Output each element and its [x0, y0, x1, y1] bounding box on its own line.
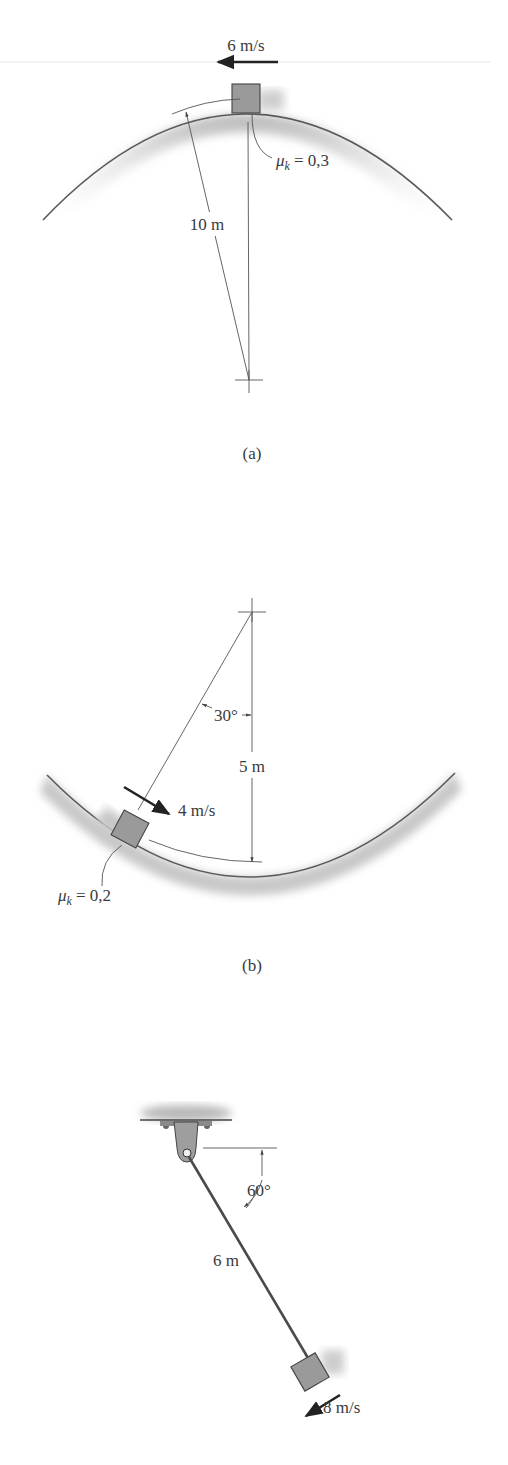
friction-label-a: μk= 0,3 — [275, 151, 329, 173]
radius-label-a: 10 m — [190, 215, 224, 234]
velocity-label-a: 6 m/s — [227, 36, 264, 55]
velocity-label-b: 4 m/s — [178, 801, 215, 820]
caption-b: (b) — [242, 956, 262, 975]
angle-label-c: 60° — [247, 1181, 271, 1200]
motion-blur — [258, 90, 284, 110]
ceiling-shade — [140, 1105, 232, 1121]
velocity-arrow-b — [124, 787, 169, 814]
length-label-c: 6 m — [213, 1251, 239, 1270]
velocity-label-c: 8 m/s — [323, 1398, 360, 1417]
arc-dimension-b — [149, 840, 262, 862]
block-a — [232, 84, 260, 113]
angle-arrow-left-b — [202, 704, 212, 708]
figure-canvas: 6 m/s 10 m μk= 0,3 (a) 5 m — [0, 0, 508, 1465]
caption-a: (a) — [243, 444, 262, 463]
pivot-pin-icon — [183, 1149, 191, 1157]
panel-a: 6 m/s 10 m μk= 0,3 (a) — [43, 36, 452, 463]
radius-slanted-a — [186, 112, 249, 380]
radius-vertical-a — [248, 122, 249, 380]
panel-b: 5 m 30° 4 m/s μk= 0,2 (b) — [40, 598, 462, 975]
arc-dimension-a — [172, 99, 240, 114]
hump-surface-shade — [43, 114, 452, 226]
friction-label-b: μk= 0,2 — [57, 886, 111, 908]
angle-label-b: 30° — [214, 706, 238, 725]
radius-label-b: 5 m — [239, 757, 265, 776]
panel-c: 60° 6 m 8 m/s — [140, 1105, 360, 1417]
